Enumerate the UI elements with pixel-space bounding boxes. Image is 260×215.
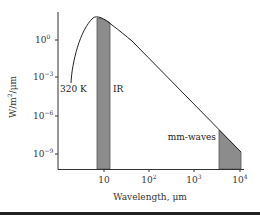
svg-text:10−3: 10−3 (33, 70, 53, 82)
x-axis-label: Wavelength, μm (113, 192, 187, 202)
mm-waves-band-label: mm-waves (168, 132, 217, 142)
svg-text:103: 103 (186, 173, 201, 185)
svg-text:10: 10 (98, 175, 110, 185)
bottom-rule (0, 212, 260, 215)
ir-band (97, 18, 110, 169)
blackbody-spectrum-chart: 100 10−3 10−6 10−9 10 102 103 104 Wavele… (0, 0, 260, 215)
svg-text:104: 104 (232, 173, 247, 185)
svg-text:102: 102 (141, 173, 156, 185)
y-tick-labels: 100 10−3 10−6 10−9 (33, 33, 53, 159)
svg-text:100: 100 (35, 33, 50, 45)
x-tick-labels: 10 102 103 104 (98, 173, 248, 185)
mm-waves-band (219, 130, 241, 169)
y-axis-label: W/m2/μm (6, 76, 18, 119)
svg-text:10−9: 10−9 (33, 147, 53, 159)
ir-band-label: IR (113, 84, 124, 94)
curve-temperature-label: 320 K (60, 84, 87, 94)
svg-text:10−6: 10−6 (33, 109, 53, 121)
